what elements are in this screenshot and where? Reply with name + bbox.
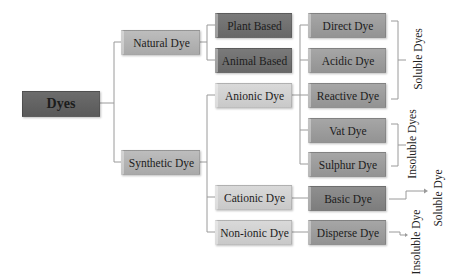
node-disperse-dye: Disperse Dye [308,220,386,245]
node-dyes: Dyes [22,91,100,117]
node-sulphur-dye: Sulphur Dye [308,152,386,177]
node-synthetic-dye: Synthetic Dye [121,150,200,175]
node-animal-based: Animal Based [215,48,292,73]
label-soluble-dye: Soluble Dye [432,163,444,233]
node-plant-based: Plant Based [215,13,292,38]
node-cationic-dye: Cationic Dye [215,185,292,210]
node-anionic-dye: Anionic Dye [215,83,292,108]
node-direct-dye: Direct Dye [308,13,386,38]
node-nonionic-dye: Non-ionic Dye [215,220,292,245]
label-insoluble-dyes: Insoluble Dyes [406,104,418,184]
label-soluble-dyes: Soluble Dyes [412,19,424,99]
node-reactive-dye: Reactive Dye [308,83,386,108]
node-acidic-dye: Acidic Dye [308,48,386,73]
node-basic-dye: Basic Dye [308,186,386,211]
node-natural-dye: Natural Dye [121,30,200,55]
node-vat-dye: Vat Dye [308,118,386,143]
label-insoluble-dye: Insoluble Dye [410,205,422,275]
